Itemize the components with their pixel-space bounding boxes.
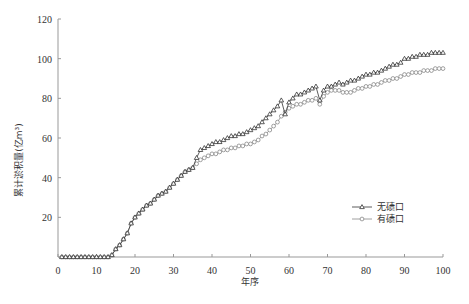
data-point xyxy=(125,231,130,235)
data-point xyxy=(222,148,226,152)
data-point xyxy=(380,81,384,85)
data-point xyxy=(353,89,357,93)
x-tick-label: 70 xyxy=(323,265,333,276)
x-tick-label: 10 xyxy=(92,265,102,276)
y-tick-label: 20 xyxy=(42,212,52,223)
y-tick-label: 60 xyxy=(42,133,52,144)
data-point xyxy=(437,67,441,71)
x-tick-label: 40 xyxy=(207,265,217,276)
data-point xyxy=(206,154,210,158)
data-point xyxy=(410,71,414,75)
y-tick-label: 40 xyxy=(42,173,52,184)
line-chart: 0102030405060708090100020406080100120 无碛… xyxy=(0,0,469,304)
y-tick-label: 80 xyxy=(42,93,52,104)
legend-label: 有碛口 xyxy=(377,213,404,224)
data-point xyxy=(349,90,353,94)
data-point xyxy=(322,94,326,98)
data-point xyxy=(210,152,214,156)
data-point xyxy=(399,75,403,79)
data-point xyxy=(306,98,310,102)
legend: 无碛口有碛口 xyxy=(352,201,404,224)
series-circle xyxy=(60,67,445,259)
data-point xyxy=(268,128,272,132)
legend-label: 无碛口 xyxy=(377,201,404,212)
x-tick-label: 0 xyxy=(56,265,61,276)
x-tick-label: 30 xyxy=(169,265,179,276)
data-point xyxy=(441,50,446,54)
data-point xyxy=(218,150,222,154)
data-point xyxy=(252,140,256,144)
data-point xyxy=(364,85,368,89)
data-point xyxy=(430,69,434,73)
legend-item-circle: 有碛口 xyxy=(352,213,404,224)
data-point xyxy=(337,80,342,84)
data-point xyxy=(291,104,295,108)
data-point xyxy=(403,73,407,77)
data-point xyxy=(303,100,307,104)
data-point xyxy=(314,84,319,88)
data-point xyxy=(329,89,333,93)
data-point xyxy=(345,90,349,94)
data-point xyxy=(376,83,380,87)
data-point xyxy=(226,148,230,152)
data-point xyxy=(233,146,237,150)
data-point xyxy=(341,90,345,94)
data-point xyxy=(279,98,284,102)
data-point xyxy=(195,162,199,166)
y-axis-title: 累计淤积量(亿m³) xyxy=(13,123,24,196)
y-tick-label: 100 xyxy=(37,54,52,65)
x-tick-label: 20 xyxy=(130,265,140,276)
data-series xyxy=(60,50,446,259)
data-point xyxy=(241,144,245,148)
data-point xyxy=(214,152,218,156)
data-point xyxy=(299,102,303,106)
triangle-marker-icon xyxy=(360,205,365,209)
data-point xyxy=(276,120,280,124)
data-point xyxy=(249,142,253,146)
data-point xyxy=(256,138,260,142)
x-tick-label: 100 xyxy=(436,265,451,276)
data-point xyxy=(441,67,445,71)
data-point xyxy=(310,98,314,102)
x-tick-label: 50 xyxy=(246,265,256,276)
data-point xyxy=(229,146,233,150)
data-point xyxy=(418,71,422,75)
data-point xyxy=(356,87,360,91)
data-point xyxy=(264,132,268,136)
data-point xyxy=(318,102,322,106)
y-tick-label: 120 xyxy=(37,14,52,25)
data-point xyxy=(368,85,372,89)
data-point xyxy=(260,134,264,138)
circle-marker-icon xyxy=(360,217,364,221)
data-point xyxy=(333,89,337,93)
data-point xyxy=(272,124,276,128)
x-axis-title: 年序 xyxy=(241,276,259,287)
data-point xyxy=(387,79,391,83)
legend-item-triangle: 无碛口 xyxy=(352,201,404,212)
data-point xyxy=(360,87,364,91)
data-point xyxy=(295,102,299,106)
data-point xyxy=(426,69,430,73)
data-point xyxy=(433,67,437,71)
data-point xyxy=(337,89,341,93)
data-point xyxy=(194,155,199,159)
data-point xyxy=(414,71,418,75)
data-point xyxy=(422,69,426,73)
data-point xyxy=(245,142,249,146)
x-tick-label: 80 xyxy=(361,265,371,276)
data-point xyxy=(237,144,241,148)
data-point xyxy=(383,79,387,83)
data-point xyxy=(406,73,410,77)
x-tick-label: 60 xyxy=(284,265,294,276)
data-point xyxy=(372,83,376,87)
x-tick-label: 90 xyxy=(400,265,410,276)
data-point xyxy=(391,77,395,81)
data-point xyxy=(395,77,399,81)
data-point xyxy=(314,96,318,100)
data-point xyxy=(202,156,206,160)
